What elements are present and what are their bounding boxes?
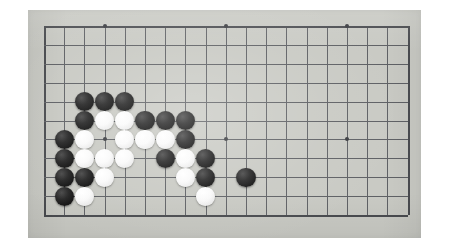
- stone-black[interactable]: [55, 187, 74, 206]
- stone-white[interactable]: [115, 149, 134, 168]
- go-board-photo: [28, 10, 421, 238]
- stone-black[interactable]: [55, 149, 74, 168]
- stone-black[interactable]: [75, 92, 94, 111]
- stone-black[interactable]: [55, 168, 74, 187]
- stone-black[interactable]: [75, 168, 94, 187]
- stone-white[interactable]: [176, 168, 195, 187]
- stone-black[interactable]: [196, 149, 215, 168]
- stone-black[interactable]: [95, 92, 114, 111]
- stone-white[interactable]: [75, 130, 94, 149]
- stone-black[interactable]: [236, 168, 255, 187]
- stone-white[interactable]: [156, 130, 175, 149]
- stone-white[interactable]: [75, 149, 94, 168]
- stone-black[interactable]: [176, 130, 195, 149]
- screenshot-root: [0, 0, 451, 249]
- stone-black[interactable]: [135, 111, 154, 130]
- stone-black[interactable]: [156, 111, 175, 130]
- board-stones: [28, 10, 421, 238]
- stone-white[interactable]: [115, 111, 134, 130]
- stone-white[interactable]: [75, 187, 94, 206]
- stone-black[interactable]: [115, 92, 134, 111]
- stone-white[interactable]: [135, 130, 154, 149]
- stone-white[interactable]: [95, 168, 114, 187]
- stone-black[interactable]: [156, 149, 175, 168]
- stone-white[interactable]: [196, 187, 215, 206]
- stone-white[interactable]: [95, 149, 114, 168]
- stone-black[interactable]: [55, 130, 74, 149]
- stone-black[interactable]: [75, 111, 94, 130]
- stone-white[interactable]: [95, 111, 114, 130]
- stone-white[interactable]: [176, 149, 195, 168]
- stone-white[interactable]: [115, 130, 134, 149]
- stone-black[interactable]: [176, 111, 195, 130]
- stone-black[interactable]: [196, 168, 215, 187]
